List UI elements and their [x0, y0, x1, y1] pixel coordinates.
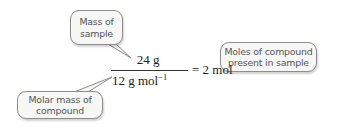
moles-calculation-diagram: Mass of sample Molar mass of compound Mo… — [0, 0, 338, 131]
equals-sign: = — [192, 62, 199, 77]
pointer-mass-of-sample — [108, 44, 131, 58]
equation-result: = 2 mol — [192, 62, 233, 78]
callout-text-line: Moles of compound — [224, 46, 312, 58]
callout-text-line: Mass of — [79, 16, 113, 28]
fraction-bar — [111, 70, 188, 71]
fraction-numerator: 24 g — [132, 52, 164, 68]
pointer-molar-mass — [74, 77, 112, 92]
callout-text-line: sample — [80, 28, 113, 40]
callout-text-line: present in sample — [228, 57, 309, 69]
callout-moles-of-compound: Moles of compound present in sample — [220, 42, 317, 72]
callout-mass-of-sample: Mass of sample — [70, 10, 123, 45]
denominator-exponent: −1 — [158, 72, 167, 82]
result-value: 2 mol — [203, 62, 233, 77]
callout-text-line: compound — [36, 105, 84, 117]
fraction-denominator: 12 g mol−1 — [112, 72, 167, 89]
callout-molar-mass: Molar mass of compound — [17, 91, 103, 119]
callout-text-line: Molar mass of — [28, 94, 91, 106]
denominator-base: 12 g mol — [112, 73, 158, 88]
